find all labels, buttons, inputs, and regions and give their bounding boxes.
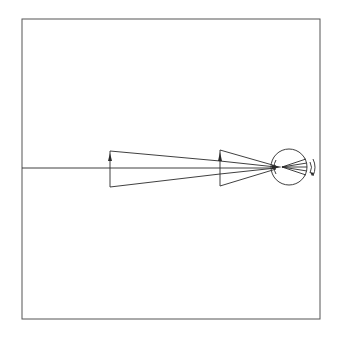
focal-point-icon: [272, 165, 282, 169]
object-arrow-far: [108, 151, 112, 187]
arrowhead-icon: [108, 153, 112, 161]
ray-diagram: [0, 0, 342, 337]
eye: [271, 149, 307, 185]
arrowhead-icon: [218, 152, 222, 161]
rays-far-object: [110, 151, 276, 187]
rotation-marks-icon: [310, 159, 315, 176]
